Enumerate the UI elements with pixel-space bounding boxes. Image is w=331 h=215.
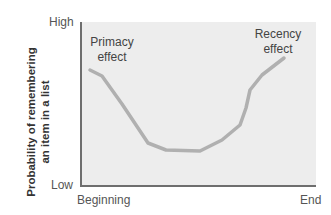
recency-annotation: Recency effect xyxy=(254,27,302,57)
recency-line-2: effect xyxy=(254,42,302,57)
primacy-annotation: Primacy effect xyxy=(89,35,135,65)
y-axis-label-line-2: an item in a list xyxy=(38,42,52,202)
y-axis-label-line-1: Probability of remembering xyxy=(24,42,38,202)
x-axis xyxy=(80,185,316,187)
serial-position-curve xyxy=(90,58,284,151)
y-axis-label: Probability of remembering an item in a … xyxy=(24,42,52,202)
x-tick-beginning: Beginning xyxy=(77,193,130,207)
x-tick-end: End xyxy=(300,193,321,207)
y-tick-low: Low xyxy=(51,178,73,192)
y-axis xyxy=(80,22,82,187)
recency-line-1: Recency xyxy=(254,27,302,42)
primacy-line-2: effect xyxy=(89,50,135,65)
y-tick-high: High xyxy=(49,15,74,29)
primacy-line-1: Primacy xyxy=(89,35,135,50)
